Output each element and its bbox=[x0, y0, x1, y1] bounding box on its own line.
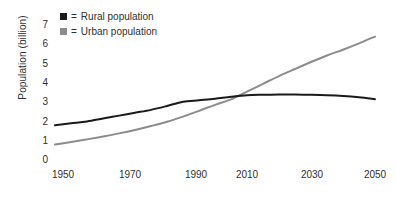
plot-area bbox=[0, 0, 396, 197]
urban-population-line bbox=[55, 37, 375, 145]
population-line-chart: Population (billion) 7 6 5 4 3 2 1 0 195… bbox=[0, 0, 396, 197]
rural-population-line bbox=[55, 95, 375, 126]
